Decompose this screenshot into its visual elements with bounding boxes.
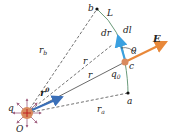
label-rb: rb: [39, 45, 47, 56]
label-a: a: [127, 96, 132, 106]
point-a: [126, 91, 129, 94]
label-L: L: [106, 8, 113, 18]
label-dr: dr: [101, 28, 112, 38]
label-theta: θ: [131, 46, 137, 56]
label-E: E: [152, 33, 161, 44]
label-O: O: [16, 124, 24, 134]
label-r0: r0: [40, 86, 50, 98]
label-r: r: [88, 70, 93, 80]
label-q0: q0: [111, 69, 121, 80]
label-b: b: [88, 3, 94, 13]
label-q: q: [8, 103, 14, 113]
label-c: c: [129, 61, 134, 71]
label-r-prime: r: [83, 56, 88, 66]
electric-potential-diagram: b L rb dr dl E θ r r c q0 r0 q O a ra: [0, 0, 173, 137]
label-ra: ra: [97, 104, 105, 115]
point-b: [95, 7, 98, 10]
label-dl: dl: [123, 25, 132, 35]
test-charge-q0: [122, 59, 129, 66]
